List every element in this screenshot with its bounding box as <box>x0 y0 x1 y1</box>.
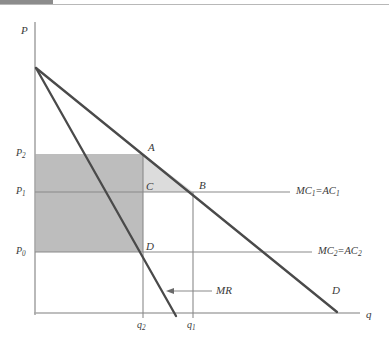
mr-pointer-label: MR <box>216 285 232 296</box>
ac1-label-base: AC <box>322 185 335 196</box>
x-tick-q1: q1 <box>187 320 196 332</box>
mc2-label-sub: 2 <box>334 249 338 258</box>
x-tick-q2: q2 <box>137 320 146 332</box>
mc2-ac2-label: MC2=AC2 <box>318 246 362 257</box>
mc2-label-base: MC <box>318 245 334 256</box>
y-tick-p0: P0 <box>16 246 26 258</box>
ac2-label-base: AC <box>344 245 357 256</box>
demand-curve-label: D <box>332 285 340 296</box>
mc1-label-base: MC <box>296 185 312 196</box>
y-axis-label: P <box>21 25 28 36</box>
x-tick-q2-sub: 2 <box>142 324 146 332</box>
point-label-d: D <box>146 241 154 252</box>
mc1-ac1-label: MC1=AC1 <box>296 186 340 197</box>
economics-diagram: P q P2 P1 P0 q2 q1 A B C D D MR MC1=AC1 … <box>0 0 389 351</box>
y-tick-p2-sub: 2 <box>22 152 26 160</box>
y-tick-p1-sub: 1 <box>22 190 26 198</box>
mc1-label-sub: 1 <box>312 189 316 198</box>
point-label-a: A <box>148 142 155 153</box>
point-label-c: C <box>146 181 153 192</box>
mr-pointer-arrow <box>166 288 212 294</box>
point-label-b: B <box>199 180 206 191</box>
ac2-label-sub: 2 <box>358 249 362 258</box>
diagram-canvas <box>0 0 389 351</box>
ac1-label-sub: 1 <box>336 189 340 198</box>
y-tick-p2: P2 <box>16 148 26 160</box>
x-tick-q1-sub: 1 <box>192 324 196 332</box>
x-axis-label: q <box>366 309 372 320</box>
y-tick-p1: P1 <box>16 186 26 198</box>
y-tick-p0-sub: 0 <box>22 250 26 258</box>
profit-rectangle-shading <box>35 154 143 252</box>
